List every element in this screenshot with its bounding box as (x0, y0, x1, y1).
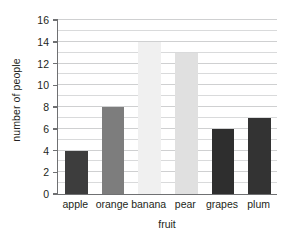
y-axis-tick-label: 4 (43, 145, 49, 156)
y-axis-title-text: number of people (10, 58, 22, 141)
x-axis-tick-label-orange: orange (96, 197, 129, 211)
x-axis-title: fruit (57, 218, 277, 230)
y-axis-title: number of people (6, 0, 26, 200)
y-axis-tick-label: 16 (37, 15, 49, 26)
x-axis-tick-labels: appleorangebananapeargrapesplum (57, 197, 277, 213)
bar-grapes (212, 129, 235, 194)
y-axis-tick-label: 10 (37, 80, 49, 91)
bars-layer (58, 21, 277, 194)
plot-area: 0246810121416 (57, 21, 277, 195)
x-axis-tick-label-pear: pear (175, 197, 196, 211)
bar-banana (138, 42, 161, 194)
gridline (58, 19, 277, 20)
y-axis-tick-label: 14 (37, 37, 49, 48)
y-axis-tick-label: 6 (43, 124, 49, 135)
bar-pear (175, 53, 198, 194)
y-axis-tick-label: 2 (43, 167, 49, 178)
x-axis-tick-label-grapes: grapes (206, 197, 238, 211)
x-axis-tick-label-banana: banana (131, 197, 166, 211)
y-axis-tick-label: 0 (43, 189, 49, 200)
x-axis-tick-label-plum: plum (247, 197, 270, 211)
bar-orange (102, 107, 125, 194)
bar-chart-figure: number of people 0246810121416 appleoran… (0, 0, 293, 246)
y-axis-tick-label: 12 (37, 58, 49, 69)
bar-plum (248, 118, 271, 194)
bar-apple (65, 151, 88, 195)
y-axis-tick-label: 8 (43, 102, 49, 113)
x-axis-tick-label-apple: apple (62, 197, 88, 211)
